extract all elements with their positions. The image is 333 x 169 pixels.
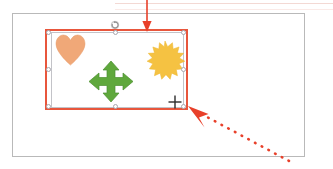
annotation-arrow-dotted xyxy=(185,103,295,165)
handle-bottom-center[interactable] xyxy=(113,104,118,109)
shape-four-way-arrow[interactable] xyxy=(88,60,134,103)
shape-sun[interactable] xyxy=(145,40,185,81)
handle-top-center[interactable] xyxy=(113,30,118,35)
crosshair-cursor xyxy=(168,95,182,109)
heart-shape-icon xyxy=(55,34,86,66)
rotate-handle[interactable] xyxy=(110,16,120,26)
sun-burst-shape-icon xyxy=(145,40,185,81)
annotation-arrow-dotted-icon xyxy=(185,103,295,165)
handle-middle-right[interactable] xyxy=(181,67,186,72)
handle-top-left[interactable] xyxy=(46,30,51,35)
crosshair-icon xyxy=(168,95,182,109)
screenshot-stage xyxy=(0,0,333,169)
handle-middle-left[interactable] xyxy=(46,67,51,72)
shape-heart[interactable] xyxy=(55,34,86,66)
annotation-arrow-down-icon xyxy=(140,0,154,32)
annotation-arrow-top xyxy=(140,0,154,32)
handle-top-right[interactable] xyxy=(181,30,186,35)
four-way-arrow-shape-icon xyxy=(88,60,134,103)
handle-bottom-left[interactable] xyxy=(46,104,51,109)
